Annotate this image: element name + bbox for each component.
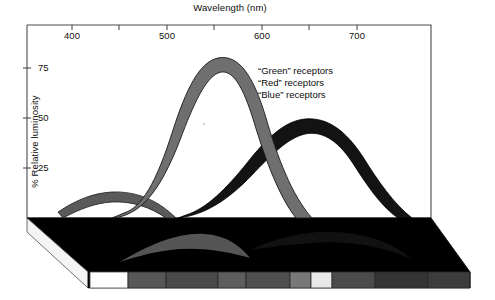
curve-blue-receptors <box>58 192 176 218</box>
platform-top-face <box>27 218 470 272</box>
blue-ribbon <box>58 192 176 218</box>
spectrum-swatch-blue <box>128 272 166 288</box>
spectrum-swatch-deep-red <box>428 272 470 288</box>
green-ribbon-speck <box>203 123 206 126</box>
plot-canvas <box>0 0 495 300</box>
x-axis-ticks <box>72 25 357 30</box>
spectrum-swatch-violet-white <box>90 272 128 288</box>
spectrum-swatch-yellow <box>311 272 332 288</box>
spectrum-swatch-orange <box>332 272 375 288</box>
spectrum-swatch-red <box>375 272 428 288</box>
spectrum-swatch-cyan <box>166 272 218 288</box>
spectrum-strip <box>90 272 470 288</box>
spectrum-swatch-green <box>246 272 290 288</box>
spectrum-swatch-green-dark <box>218 272 246 288</box>
spectral-sensitivity-figure: Wavelength (nm) % Relative luminosity 40… <box>0 0 495 300</box>
spectrum-swatch-yellow-green <box>290 272 311 288</box>
